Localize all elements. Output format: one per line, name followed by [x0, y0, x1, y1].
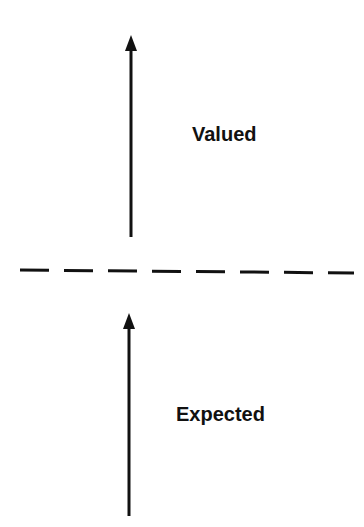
dashed-divider	[20, 270, 354, 273]
upper-arrow-head-icon	[125, 35, 137, 51]
expected-label: Expected	[176, 404, 265, 424]
lower-arrow	[123, 313, 135, 516]
lower-arrow-head-icon	[123, 313, 135, 329]
diagram-canvas	[0, 0, 364, 527]
dashed-divider-line	[20, 270, 354, 273]
upper-arrow	[125, 35, 137, 237]
valued-label: Valued	[192, 124, 256, 144]
